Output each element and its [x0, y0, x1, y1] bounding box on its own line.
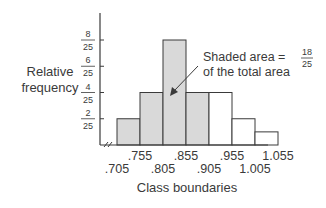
x-tick-label: .905: [197, 162, 221, 176]
y-axis-label-line1: Relative: [27, 64, 74, 79]
x-tick-label: .955: [220, 149, 244, 163]
x-axis-label: Class boundaries: [137, 180, 238, 195]
x-tick-label: 1.005: [239, 162, 270, 176]
annotation-line2: of the total area: [203, 65, 290, 79]
y-tick-denominator: 25: [83, 95, 93, 105]
histogram-bar: [209, 93, 232, 146]
histogram-bar: [232, 119, 255, 145]
y-tick-numerator: 2: [85, 108, 90, 118]
histogram-bar: [255, 132, 278, 145]
y-tick-denominator: 25: [83, 42, 93, 52]
x-ticks: .705.755.805.855.905.9551.0051.055: [105, 149, 294, 176]
annotation-line1: Shaded area =: [203, 50, 285, 64]
x-tick-label: .805: [151, 162, 175, 176]
y-tick-numerator: 4: [85, 82, 90, 92]
annotation-fraction-den: 25: [302, 59, 312, 69]
histogram-chart: 225425625825 .705.755.805.855.905.9551.0…: [0, 0, 326, 208]
y-axis-label-line2: frequency: [21, 80, 79, 95]
x-tick-label: .705: [105, 162, 129, 176]
x-tick-label: .755: [128, 149, 152, 163]
annotation: Shaded area = of the total area 18 25: [170, 47, 313, 96]
y-tick-numerator: 6: [85, 55, 90, 65]
y-tick-denominator: 25: [83, 68, 93, 78]
histogram-bar: [140, 93, 163, 146]
y-tick-denominator: 25: [83, 121, 93, 131]
histogram-bar: [186, 93, 209, 146]
y-tick-numerator: 8: [85, 29, 90, 39]
x-tick-label: 1.055: [262, 149, 293, 163]
histogram-bar: [117, 119, 140, 145]
annotation-fraction-num: 18: [302, 47, 312, 57]
x-tick-label: .855: [174, 149, 198, 163]
